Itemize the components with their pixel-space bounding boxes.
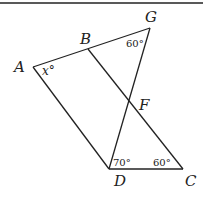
label-f: F [138,96,150,114]
label-b: B [79,30,91,48]
angle-a-label: x° [42,64,55,78]
segment-bc [88,49,183,169]
label-c: C [185,172,197,190]
angle-c-label: 60° [153,157,171,168]
geometry-diagram: A B G F D C x° 60° 70° 60° [0,0,203,199]
angle-g-label: 60° [126,38,144,49]
angle-d-label: 70° [113,157,131,168]
label-d: D [113,172,126,190]
segment-ad [33,67,109,169]
label-g: G [145,8,157,26]
label-a: A [12,58,25,76]
